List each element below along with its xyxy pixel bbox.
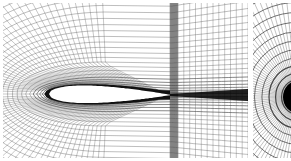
mesh-canvas [3, 3, 248, 158]
c-grid-mesh-panel: C-grid mesh [3, 3, 248, 158]
mesh-figure: C-grid mesh Leading-edge close-up [0, 0, 291, 161]
wake-refinement-band [170, 89, 248, 101]
leading-edge-inset-panel: Leading-edge close-up [253, 3, 291, 158]
inset-canvas [253, 3, 291, 158]
